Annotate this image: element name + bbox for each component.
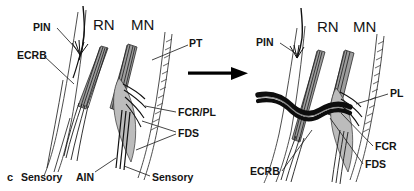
label-ecrb: ECRB (17, 49, 47, 61)
panel-letter-label: c (7, 171, 13, 183)
label-pt: PT (189, 37, 203, 49)
label-fds: FDS (178, 127, 199, 139)
label-sensory-2: Sensory (152, 171, 194, 183)
label-pin-right: PIN (256, 36, 274, 48)
anatomical-figure: PIN RN MN ECRB PT FCR/PL FDS Sensory AIN… (0, 0, 414, 191)
label-mn: MN (131, 16, 154, 33)
label-mn-right: MN (353, 18, 376, 35)
figure-background (0, 0, 414, 191)
label-fcr-pl: FCR/PL (178, 106, 217, 118)
label-rn: RN (93, 16, 115, 33)
label-ecrb-right: ECRB (250, 165, 280, 177)
label-fds-right: FDS (365, 158, 386, 170)
label-fcr-right: FCR (375, 140, 397, 152)
label-pl-right: PL (390, 87, 404, 99)
label-pin: PIN (33, 21, 51, 33)
label-sensory-1: Sensory (21, 171, 63, 183)
figure-canvas: PIN RN MN ECRB PT FCR/PL FDS Sensory AIN… (0, 0, 414, 191)
label-rn-right: RN (317, 18, 339, 35)
label-ain: AIN (76, 171, 94, 183)
